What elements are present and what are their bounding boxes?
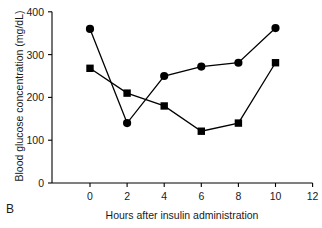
data-point-square xyxy=(235,119,242,126)
data-point-square xyxy=(161,102,168,109)
y-tick-label: 0 xyxy=(12,178,44,189)
data-point-square xyxy=(198,128,205,135)
x-tick-label: 12 xyxy=(299,191,322,202)
x-axis-label: Hours after insulin administration xyxy=(52,209,312,221)
panel-label: B xyxy=(6,203,14,215)
x-tick-label: 10 xyxy=(262,191,290,202)
data-point-circle xyxy=(234,59,242,67)
data-point-square xyxy=(272,59,279,66)
x-tick-label: 0 xyxy=(76,191,104,202)
y-tick-label: 400 xyxy=(12,7,44,18)
data-point-square xyxy=(86,65,93,72)
x-tick-label: 6 xyxy=(187,191,215,202)
data-point-circle xyxy=(160,72,168,80)
x-tick-label: 8 xyxy=(224,191,252,202)
data-point-circle xyxy=(197,62,205,70)
series-line-square xyxy=(90,63,276,131)
y-tick-label: 100 xyxy=(12,135,44,146)
x-tick-label: 4 xyxy=(150,191,178,202)
y-tick-label: 200 xyxy=(12,92,44,103)
axis-lines xyxy=(48,12,313,187)
data-point-square xyxy=(123,89,130,96)
x-tick-label: 2 xyxy=(113,191,141,202)
data-point-circle xyxy=(123,119,131,127)
y-tick-label: 300 xyxy=(12,50,44,61)
data-series-layer xyxy=(86,24,280,135)
figure-panel-b: B Blood glucose concentration (mg/dL) Ho… xyxy=(0,0,322,228)
data-point-circle xyxy=(271,24,279,32)
data-point-circle xyxy=(86,25,94,33)
